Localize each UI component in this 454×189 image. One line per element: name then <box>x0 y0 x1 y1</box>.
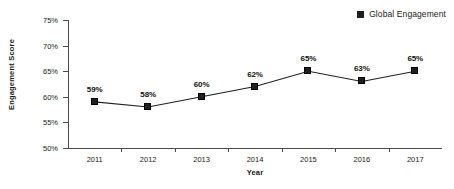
data-point-marker <box>358 77 365 84</box>
x-axis-tick <box>228 148 229 152</box>
x-axis-tick-label: 2015 <box>283 155 333 164</box>
data-point-marker <box>411 67 418 74</box>
x-axis-tick-label: 2014 <box>230 155 280 164</box>
engagement-score-line-chart: Global Engagement Engagement Score 75%70… <box>0 0 454 189</box>
x-axis-tick-label: 2012 <box>123 155 173 164</box>
data-point-label: 62% <box>235 70 275 79</box>
x-axis-tick <box>282 148 283 152</box>
x-axis-line <box>68 148 442 149</box>
x-axis-tick-label: 2011 <box>70 155 120 164</box>
data-point-label: 58% <box>128 90 168 99</box>
y-axis-tick-label: 75% <box>18 16 58 25</box>
x-axis-title: Year <box>68 168 442 177</box>
legend-item-label: Global Engagement <box>369 9 446 19</box>
data-point-label: 59% <box>75 85 115 94</box>
data-point-marker <box>251 83 258 90</box>
y-axis-tick-label: 55% <box>18 118 58 127</box>
data-point-label: 65% <box>288 54 328 63</box>
y-axis-tick-label: 60% <box>18 93 58 102</box>
x-axis-tick-label: 2013 <box>177 155 227 164</box>
data-point-label: 63% <box>342 64 382 73</box>
data-point-marker <box>91 98 98 105</box>
y-axis-tick-label: 50% <box>18 144 58 153</box>
x-axis-tick-label: 2017 <box>390 155 440 164</box>
data-point-label: 65% <box>395 54 435 63</box>
x-axis-tick <box>335 148 336 152</box>
plot-area: 59%58%60%62%65%63%65% <box>68 20 442 148</box>
data-point-marker <box>304 67 311 74</box>
y-axis-title: Engagement Score <box>5 0 19 148</box>
x-axis-tick-label: 2016 <box>337 155 387 164</box>
y-axis-tick-label: 65% <box>18 67 58 76</box>
y-axis-tick <box>63 148 68 149</box>
x-axis-tick <box>175 148 176 152</box>
x-axis-tick <box>389 148 390 152</box>
chart-legend: Global Engagement <box>357 9 446 19</box>
data-point-marker <box>144 103 151 110</box>
x-axis-tick <box>121 148 122 152</box>
data-point-marker <box>198 93 205 100</box>
square-marker-icon <box>357 11 364 18</box>
y-axis-tick-label: 70% <box>18 42 58 51</box>
data-point-label: 60% <box>182 80 222 89</box>
